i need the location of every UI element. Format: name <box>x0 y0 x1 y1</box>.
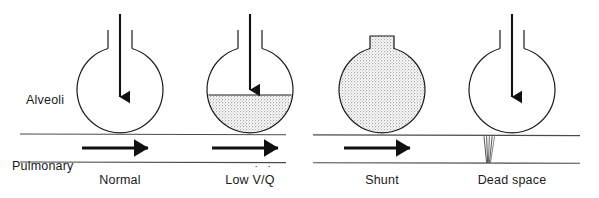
collapsed-capillary-dead-space <box>484 136 495 163</box>
caption-low-vq: Low V˙/Q˙ <box>225 173 274 187</box>
row-label-alveoli-text: Alveoli <box>26 93 64 107</box>
caption-dead-space: Dead space <box>478 173 547 187</box>
capillary-top-wall-right <box>313 135 580 136</box>
caption-low-vq-prefix: Low <box>225 173 252 187</box>
panel-dead-space <box>469 14 555 163</box>
row-label-capillary-line1: Pulmonary <box>12 160 74 173</box>
alveolus-shunt <box>339 36 425 133</box>
row-label-pulmonary-capillary: Pulmonary capillary <box>12 134 74 198</box>
caption-low-vq-v: V˙ <box>253 173 262 187</box>
overdot-icon: ˙ <box>268 166 272 178</box>
caption-shunt: Shunt <box>365 173 399 187</box>
diagram-canvas <box>0 0 599 198</box>
caption-normal: Normal <box>99 173 140 187</box>
caption-low-vq-q: Q˙ <box>265 173 275 187</box>
vq-relationship-diagram: Alveoli Pulmonary capillary Normal Low V… <box>0 0 599 198</box>
panel-low-vq <box>205 14 295 148</box>
overdot-icon: ˙ <box>255 166 259 178</box>
capillary-bottom-wall-right <box>313 163 580 164</box>
row-label-alveoli: Alveoli <box>12 81 64 120</box>
